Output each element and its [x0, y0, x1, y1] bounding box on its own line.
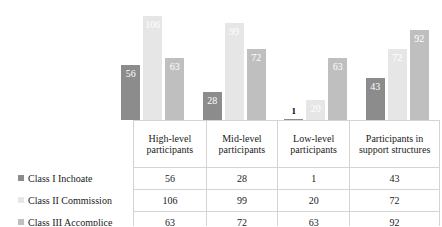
bar-wrap-class-iii-high-level: 63 [165, 4, 184, 120]
bar-value-label: 72 [388, 52, 407, 63]
bar-value-label: 56 [121, 68, 140, 79]
bar-value-label: 63 [328, 61, 347, 72]
bar-value-label: 63 [165, 61, 184, 72]
table-row: Class II Commission 106 99 20 72 [0, 190, 440, 212]
bar-group-high-level-participants: 56 106 63 [112, 4, 194, 120]
column-header-low-level: Low-level participants [278, 121, 350, 168]
cell-class-iii-high-level: 63 [134, 212, 207, 227]
bar-value-label: 92 [410, 33, 429, 44]
cell-class-iii-mid-level: 72 [206, 212, 277, 227]
cell-class-ii-mid-level: 99 [206, 190, 277, 212]
cell-class-i-mid-level: 28 [206, 168, 277, 190]
legend-label: Class I Inchoate [28, 173, 92, 184]
bar-value-label: 106 [143, 19, 162, 30]
bar-wrap-class-ii-support: 72 [388, 4, 407, 120]
bar-chart-with-data-table: 56 106 63 28 99 [0, 0, 442, 226]
bar-class-ii-low-level[interactable]: 20 [306, 100, 325, 120]
legend-item-class-iii[interactable]: Class III Accomplice [0, 212, 134, 227]
bar-value-label: 28 [203, 95, 222, 106]
plot-area: 56 106 63 28 99 [112, 4, 438, 120]
bar-value-label: 20 [306, 103, 325, 114]
bar-class-ii-high-level[interactable]: 106 [143, 16, 162, 120]
legend-swatch-icon [18, 175, 24, 181]
bar-wrap-class-iii-low-level: 63 [328, 4, 347, 120]
bar-class-i-support[interactable]: 43 [366, 78, 385, 120]
bar-wrap-class-ii-high-level: 106 [143, 4, 162, 120]
bar-class-i-mid-level[interactable]: 28 [203, 92, 222, 120]
column-header-high-level: High-level participants [134, 121, 207, 168]
cell-class-iii-support: 92 [350, 212, 440, 227]
legend-item-class-ii[interactable]: Class II Commission [0, 190, 134, 212]
bar-value-label: 43 [366, 81, 385, 92]
cell-class-i-support: 43 [350, 168, 440, 190]
column-header-support-structures: Participants in support structures [350, 121, 440, 168]
table-row: Class III Accomplice 63 72 63 92 [0, 212, 440, 227]
bar-class-iii-high-level[interactable]: 63 [165, 58, 184, 120]
cell-class-ii-low-level: 20 [278, 190, 350, 212]
legend-item-class-i[interactable]: Class I Inchoate [0, 168, 134, 190]
cell-class-i-low-level: 1 [278, 168, 350, 190]
bar-wrap-class-ii-mid-level: 99 [225, 4, 244, 120]
bar-class-ii-mid-level[interactable]: 99 [225, 23, 244, 120]
data-table: High-level participants Mid-level partic… [0, 120, 440, 226]
bar-wrap-class-i-low-level: 1 [284, 4, 303, 120]
bar-value-label: 72 [247, 52, 266, 63]
bar-value-label: 99 [225, 26, 244, 37]
bar-group-participants-in-support-structures: 43 72 92 [357, 4, 439, 120]
bar-class-iii-support[interactable]: 92 [410, 30, 429, 120]
table-corner-cell [0, 121, 134, 168]
legend-swatch-icon [18, 219, 24, 225]
bar-group-low-level-participants: 1 20 63 [275, 4, 357, 120]
bar-wrap-class-i-support: 43 [366, 4, 385, 120]
bar-wrap-class-ii-low-level: 20 [306, 4, 325, 120]
bar-class-ii-support[interactable]: 72 [388, 49, 407, 120]
cell-class-ii-support: 72 [350, 190, 440, 212]
legend-swatch-icon [18, 197, 24, 203]
legend-label: Class III Accomplice [28, 217, 112, 226]
bar-value-label: 1 [282, 106, 305, 117]
bar-wrap-class-iii-support: 92 [410, 4, 429, 120]
bar-wrap-class-iii-mid-level: 72 [247, 4, 266, 120]
bar-class-iii-mid-level[interactable]: 72 [247, 49, 266, 120]
bar-class-iii-low-level[interactable]: 63 [328, 58, 347, 120]
cell-class-iii-low-level: 63 [278, 212, 350, 227]
table-row: Class I Inchoate 56 28 1 43 [0, 168, 440, 190]
cell-class-i-high-level: 56 [134, 168, 207, 190]
column-header-mid-level: Mid-level participants [206, 121, 277, 168]
bar-class-i-high-level[interactable]: 56 [121, 65, 140, 120]
legend-label: Class II Commission [28, 195, 112, 206]
table-header-row: High-level participants Mid-level partic… [0, 121, 440, 168]
bar-group-mid-level-participants: 28 99 72 [194, 4, 276, 120]
bar-wrap-class-i-high-level: 56 [121, 4, 140, 120]
bar-wrap-class-i-mid-level: 28 [203, 4, 222, 120]
cell-class-ii-high-level: 106 [134, 190, 207, 212]
